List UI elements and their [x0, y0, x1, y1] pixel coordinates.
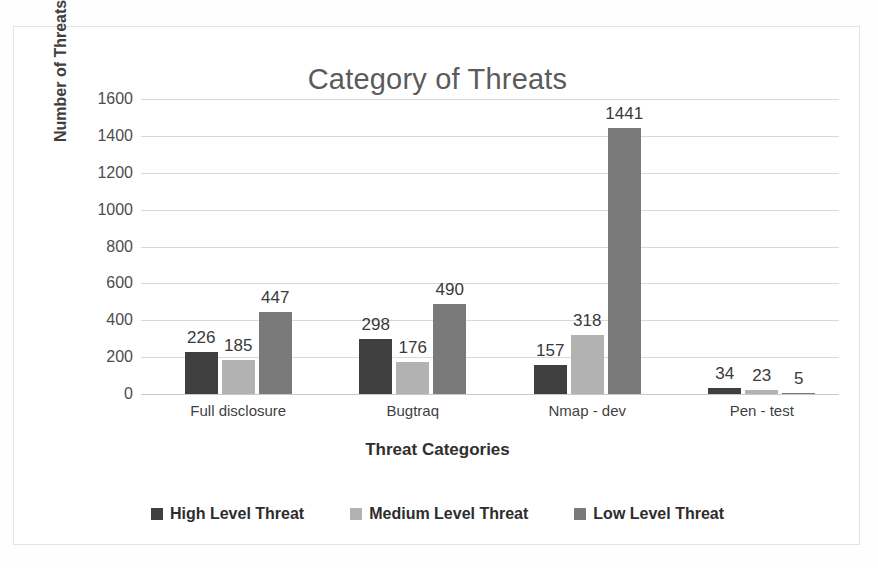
bar: [571, 335, 604, 394]
bar: [745, 390, 778, 394]
bar: [433, 304, 466, 394]
chart-frame: Category of Threats Number of Threats 16…: [13, 26, 860, 545]
legend-swatch-icon: [151, 508, 163, 520]
chart-title: Category of Threats: [14, 63, 861, 96]
legend-item[interactable]: High Level Threat: [151, 505, 304, 523]
bar-value-label: 226: [187, 328, 215, 348]
y-tick-label: 0: [63, 385, 133, 403]
legend-label: Medium Level Threat: [369, 505, 528, 523]
bar-value-label: 176: [399, 338, 427, 358]
bar: [185, 352, 218, 394]
gridline: [141, 320, 839, 321]
gridline: [141, 247, 839, 248]
legend-swatch-icon: [350, 508, 362, 520]
x-tick-label: Nmap - dev: [548, 402, 626, 419]
bar-value-label: 490: [436, 280, 464, 300]
y-tick-label: 200: [63, 348, 133, 366]
bar-value-label: 5: [794, 369, 803, 389]
gridline: [141, 357, 839, 358]
y-tick-label: 1200: [63, 164, 133, 182]
legend-label: High Level Threat: [170, 505, 304, 523]
bar: [708, 388, 741, 394]
x-tick-label: Full disclosure: [190, 402, 286, 419]
bar-value-label: 318: [573, 311, 601, 331]
bar-value-label: 447: [261, 288, 289, 308]
y-tick-label: 1400: [63, 127, 133, 145]
x-tick-label: Bugtraq: [386, 402, 439, 419]
legend-swatch-icon: [574, 508, 586, 520]
bar: [359, 339, 392, 394]
y-axis-title: Number of Threats: [52, 0, 70, 142]
legend-item[interactable]: Medium Level Threat: [350, 505, 528, 523]
bar-value-label: 298: [362, 315, 390, 335]
y-tick-label: 600: [63, 274, 133, 292]
bar-value-label: 23: [752, 366, 771, 386]
gridline: [141, 173, 839, 174]
chart-screenshot: Category of Threats Number of Threats 16…: [0, 0, 878, 568]
bar-value-label: 185: [224, 336, 252, 356]
bar-value-label: 1441: [605, 104, 643, 124]
bar: [534, 365, 567, 394]
x-tick-label: Pen - test: [730, 402, 794, 419]
plot-area: 16001400120010008006004002000 2261854472…: [141, 99, 839, 394]
gridline: [141, 136, 839, 137]
y-tick-label: 1600: [63, 90, 133, 108]
y-tick-label: 400: [63, 311, 133, 329]
gridline: [141, 210, 839, 211]
bar-value-label: 157: [536, 341, 564, 361]
bar: [222, 360, 255, 394]
chart-legend: High Level ThreatMedium Level ThreatLow …: [14, 505, 861, 523]
bar: [782, 393, 815, 394]
legend-label: Low Level Threat: [593, 505, 724, 523]
x-axis-title: Threat Categories: [14, 440, 861, 460]
bar: [259, 312, 292, 394]
y-tick-label: 1000: [63, 201, 133, 219]
y-tick-label: 800: [63, 238, 133, 256]
legend-item[interactable]: Low Level Threat: [574, 505, 724, 523]
bar: [608, 128, 641, 394]
bar: [396, 362, 429, 394]
gridline: [141, 283, 839, 284]
gridline: [141, 99, 839, 100]
gridline: [141, 394, 839, 395]
bar-value-label: 34: [715, 364, 734, 384]
